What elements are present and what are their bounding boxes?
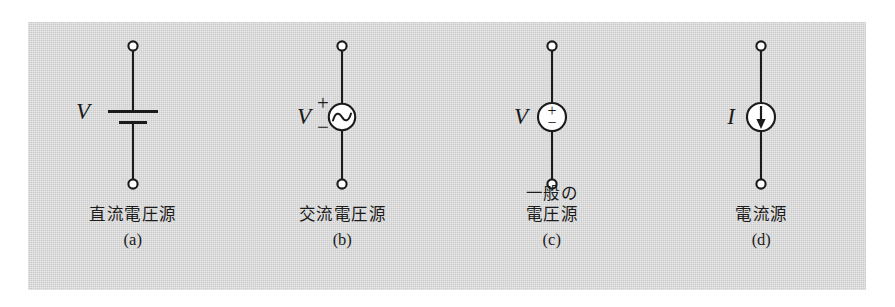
caption-block: 電流源 (d) bbox=[661, 204, 861, 250]
caption-line: 電流源 bbox=[661, 204, 861, 225]
top-terminal-node-icon bbox=[128, 41, 137, 50]
bottom-terminal-node-icon bbox=[128, 179, 137, 188]
bottom-terminal-node-icon bbox=[338, 179, 347, 188]
caption-line: 一般の bbox=[452, 183, 652, 204]
symbol-panel-ac-voltage-source: V + − 交流電圧源 (b) bbox=[242, 22, 442, 290]
dc-voltage-source-symbol: V bbox=[33, 22, 233, 204]
minus-sign-label: − bbox=[317, 115, 329, 139]
generic-voltage-source-symbol: + − V bbox=[452, 22, 652, 204]
caption-block: 一般の 電圧源 (c) bbox=[452, 183, 652, 250]
bottom-terminal-node-icon bbox=[757, 179, 766, 188]
quantity-label: V bbox=[76, 99, 93, 124]
top-terminal-node-icon bbox=[547, 41, 556, 50]
panel-index-label: (c) bbox=[452, 230, 652, 250]
symbol-panel-generic-voltage-source: + − V 一般の 電圧源 (c) bbox=[452, 22, 652, 290]
top-terminal-node-icon bbox=[338, 41, 347, 50]
symbol-panel-current-source: I 電流源 (d) bbox=[661, 22, 861, 290]
caption-block: 交流電圧源 (b) bbox=[242, 204, 442, 250]
symbol-panel-dc-voltage-source: V 直流電圧源 (a) bbox=[33, 22, 233, 290]
panel-index-label: (d) bbox=[661, 230, 861, 250]
caption-line: 直流電圧源 bbox=[33, 204, 233, 225]
quantity-label: V bbox=[297, 104, 314, 129]
symbol-panel-row: V 直流電圧源 (a) V bbox=[28, 22, 866, 290]
ac-voltage-source-symbol: V + − bbox=[242, 22, 442, 204]
plus-sign-label: + bbox=[317, 91, 329, 115]
panel-index-label: (a) bbox=[33, 230, 233, 250]
caption-line: 電圧源 bbox=[452, 204, 652, 225]
caption-block: 直流電圧源 (a) bbox=[33, 204, 233, 250]
current-source-symbol: I bbox=[661, 22, 861, 204]
top-terminal-node-icon bbox=[757, 41, 766, 50]
minus-sign-label: − bbox=[547, 114, 556, 131]
quantity-label: I bbox=[726, 104, 736, 129]
panel-index-label: (b) bbox=[242, 230, 442, 250]
quantity-label: V bbox=[514, 104, 531, 129]
figure-root: V 直流電圧源 (a) V bbox=[0, 0, 895, 307]
caption-line: 交流電圧源 bbox=[242, 204, 442, 225]
